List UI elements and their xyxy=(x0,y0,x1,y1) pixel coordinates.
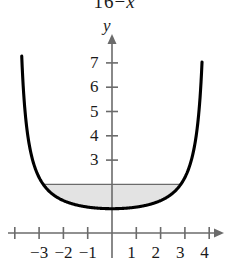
x-tick-label: 3 xyxy=(176,244,185,261)
graph-figure: 16−x −3−2−1123434567 y xyxy=(0,0,229,267)
x-tick-label: −1 xyxy=(79,244,97,261)
y-tick-label: 7 xyxy=(90,54,99,71)
y-tick-label: 6 xyxy=(90,78,99,95)
y-tick-label: 4 xyxy=(90,127,99,144)
y-axis-label: y xyxy=(103,17,111,34)
axes-group xyxy=(8,34,224,258)
y-tick-label: 3 xyxy=(90,151,99,168)
y-axis-arrow-icon xyxy=(108,34,117,44)
x-tick-label: 4 xyxy=(200,244,209,261)
x-tick-label: −3 xyxy=(30,244,48,261)
x-axis-arrow-icon xyxy=(214,229,224,238)
y-tick-label: 5 xyxy=(90,103,99,120)
plot-canvas xyxy=(0,0,229,267)
x-tick-label: 2 xyxy=(152,244,161,261)
x-tick-label: −2 xyxy=(54,244,72,261)
x-tick-label: 1 xyxy=(127,244,136,261)
